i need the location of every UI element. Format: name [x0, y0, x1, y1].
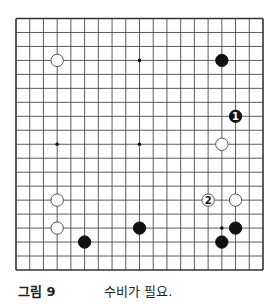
- black-stone: [216, 236, 228, 248]
- star-point: [138, 142, 142, 146]
- black-stone: [229, 222, 241, 234]
- star-point: [55, 142, 59, 146]
- stones: 12: [51, 54, 242, 248]
- figure-description: 수비가 필요.: [104, 281, 172, 300]
- star-point: [138, 59, 142, 63]
- black-stone: [133, 222, 145, 234]
- star-point: [220, 226, 224, 230]
- black-stone: 1: [229, 110, 241, 122]
- white-stone: [51, 222, 63, 234]
- black-stone: [78, 236, 90, 248]
- white-stone: [216, 138, 228, 150]
- go-board: 12: [0, 0, 280, 280]
- figure-label: 그림 9: [18, 281, 56, 300]
- white-stone: [51, 54, 63, 66]
- white-stone: 2: [202, 194, 214, 206]
- move-number: 2: [205, 195, 212, 206]
- move-number: 1: [232, 111, 239, 122]
- white-stone: [229, 194, 241, 206]
- white-stone: [51, 194, 63, 206]
- black-stone: [216, 54, 228, 66]
